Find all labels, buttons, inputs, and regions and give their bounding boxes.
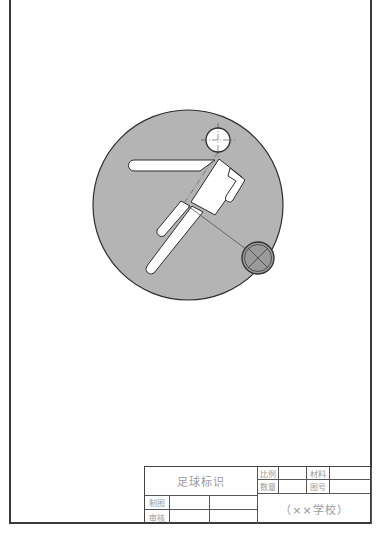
drawn-by-value [170, 496, 210, 510]
quantity-label: 数量 [258, 480, 279, 494]
drawing-no-value [330, 480, 372, 494]
checked-by-value [170, 510, 210, 524]
quantity-value [279, 480, 307, 494]
scale-label: 比例 [258, 467, 279, 480]
scale-value [279, 467, 307, 480]
school-name: （××学校） [258, 494, 372, 524]
title-block: 足球标识 比例 材料 数量 图号 制图 审核 （××学校） [144, 466, 371, 523]
drawing-no-label: 图号 [307, 480, 330, 494]
figure-arm-left [129, 160, 215, 171]
checked-by-label: 审核 [145, 510, 170, 524]
drawing-name: 足球标识 [145, 467, 258, 496]
material-value [330, 467, 372, 480]
material-label: 材料 [307, 467, 330, 480]
drawn-date [210, 496, 258, 510]
checked-date [210, 510, 258, 524]
soccer-emblem-drawing [0, 0, 376, 534]
drawn-by-label: 制图 [145, 496, 170, 510]
drawing-sheet: 足球标识 比例 材料 数量 图号 制图 审核 （××学校） [0, 0, 376, 534]
